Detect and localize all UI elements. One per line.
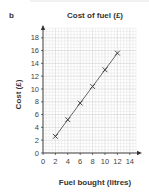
svg-text:12: 12 bbox=[31, 72, 39, 81]
svg-text:2: 2 bbox=[35, 136, 39, 145]
svg-text:6: 6 bbox=[35, 110, 39, 119]
svg-text:10: 10 bbox=[101, 157, 109, 166]
svg-text:14: 14 bbox=[31, 59, 39, 68]
svg-text:8: 8 bbox=[91, 157, 95, 166]
svg-text:6: 6 bbox=[78, 157, 82, 166]
svg-text:8: 8 bbox=[35, 97, 39, 106]
svg-text:0: 0 bbox=[41, 157, 45, 166]
svg-text:4: 4 bbox=[66, 157, 70, 166]
svg-text:18: 18 bbox=[31, 33, 39, 42]
svg-text:0: 0 bbox=[35, 149, 39, 158]
svg-text:4: 4 bbox=[35, 123, 39, 132]
svg-text:10: 10 bbox=[31, 85, 39, 94]
svg-text:14: 14 bbox=[126, 157, 134, 166]
svg-text:16: 16 bbox=[31, 46, 39, 55]
chart-plot: 02468101214024681012141618 bbox=[0, 0, 149, 192]
svg-text:2: 2 bbox=[53, 157, 57, 166]
svg-text:12: 12 bbox=[113, 157, 121, 166]
